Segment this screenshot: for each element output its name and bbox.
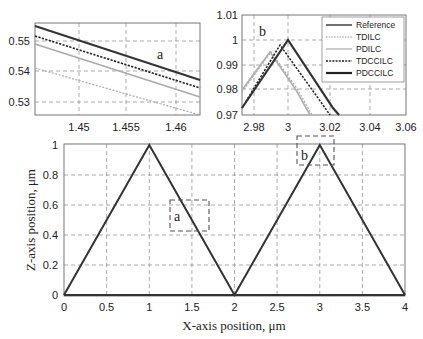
figure: a 0.55 0.54 0.53 1.45 1.455 1.46 b [0, 0, 423, 339]
legend-tdccilc-label: TDCCILC [356, 56, 393, 66]
inset-a: a 0.55 0.54 0.53 1.45 1.455 1.46 [9, 23, 200, 133]
legend-reference-label: Reference [356, 20, 395, 30]
main-xtick: 3 [317, 301, 323, 313]
main-xtick: 0 [61, 301, 67, 313]
inset-b-xtick: 3.06 [395, 121, 416, 133]
inset-a-xtick: 1.455 [112, 121, 140, 133]
inset-b-ytick: 0.99 [217, 59, 238, 71]
main-xtick: 0.5 [99, 301, 114, 313]
inset-b-ytick: 1 [232, 34, 238, 46]
legend-tdilc-label: TDILC [356, 32, 381, 42]
inset-b-ytick: 1.01 [217, 9, 238, 21]
inset-b-xtick: 3.02 [319, 121, 340, 133]
inset-b-xtick: 3 [285, 121, 291, 133]
main-xtick: 1.5 [184, 301, 199, 313]
inset-a-frame [35, 23, 200, 115]
inset-a-ytick: 0.54 [9, 65, 30, 77]
main-ytick: 0.4 [43, 229, 58, 241]
inset-b: b Reference TDILC PDILC TDCCILC PDCCILC … [217, 9, 417, 133]
main-xtick: 4 [402, 301, 408, 313]
main-xlabel: X-axis position, μm [182, 318, 285, 333]
inset-b-letter: b [259, 24, 266, 39]
inset-a-xtick: 1.46 [165, 121, 186, 133]
main-ylabel: Z-axis position, μm [23, 169, 38, 271]
inset-a-letter: a [157, 47, 164, 62]
inset-b-ytick: 0.97 [217, 109, 238, 121]
main-chart: a b 0 0.2 0.4 0.6 0.8 1 0 0.5 1 1.5 2 2.… [23, 136, 408, 333]
main-ytick: 0.2 [43, 259, 58, 271]
inset-b-xtick: 2.98 [243, 121, 264, 133]
main-xtick: 2 [231, 301, 237, 313]
inset-a-ytick: 0.53 [9, 96, 30, 108]
legend-pdccilc-label: PDCCILC [356, 68, 393, 78]
inset-a-ytick: 0.55 [9, 35, 30, 47]
zoom-box-b-letter: b [301, 148, 308, 163]
main-ytick: 0 [52, 289, 58, 301]
inset-a-xtick: 1.45 [68, 121, 89, 133]
inset-b-ytick: 0.98 [217, 83, 238, 95]
main-ytick: 1 [52, 139, 58, 151]
legend-pdilc-label: PDILC [356, 44, 381, 54]
main-ytick: 0.8 [43, 169, 58, 181]
inset-b-xtick: 3.04 [359, 121, 380, 133]
main-xtick: 1 [146, 301, 152, 313]
main-ytick: 0.6 [43, 199, 58, 211]
main-xtick: 2.5 [269, 301, 284, 313]
zoom-box-a-letter: a [174, 209, 181, 224]
main-xtick: 3.5 [355, 301, 370, 313]
legend: Reference TDILC PDILC TDCCILC PDCCILC [322, 17, 404, 82]
